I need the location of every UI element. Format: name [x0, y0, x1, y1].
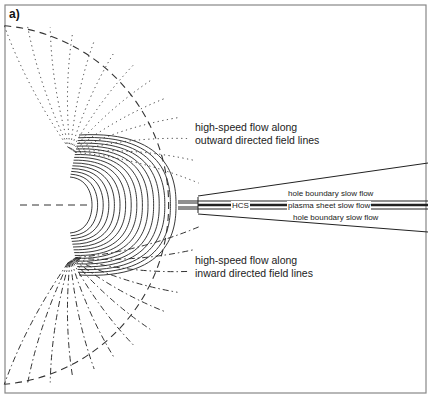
- plasma-sheet-label: plasma sheet slow flow: [287, 201, 371, 210]
- outward-flow-label-1: high-speed flow along: [195, 121, 297, 134]
- outward-flow-label-2: outward directed field lines: [195, 134, 319, 147]
- outward-field-lines: [4, 25, 198, 183]
- inward-flow-label-1: high-speed flow along: [195, 254, 297, 267]
- hole-boundary-top-label: hole boundary slow flow: [287, 189, 374, 198]
- inward-field-lines: [4, 227, 198, 385]
- frame: [5, 5, 426, 393]
- hcs-label: HCS: [231, 201, 250, 210]
- panel-label: a): [9, 7, 20, 21]
- inward-flow-label-2: inward directed field lines: [195, 267, 313, 280]
- hole-boundary-bottom-label: hole boundary slow flow: [292, 213, 379, 222]
